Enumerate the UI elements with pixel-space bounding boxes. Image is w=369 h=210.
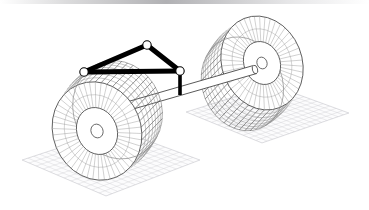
scene-canvas[interactable] (0, 0, 369, 210)
viewport-3d-scene[interactable]: Vehicle Axle Suspension Assembly left ti… (0, 0, 369, 210)
a-arm-control-linkage[interactable] (80, 41, 184, 76)
ball-joint-outboard-joint[interactable] (80, 68, 88, 76)
ball-joint-apex-joint[interactable] (143, 41, 151, 49)
ball-joint-inboard-joint[interactable] (176, 67, 184, 75)
linkage-arm (147, 45, 180, 71)
linkage-arm (84, 71, 180, 72)
